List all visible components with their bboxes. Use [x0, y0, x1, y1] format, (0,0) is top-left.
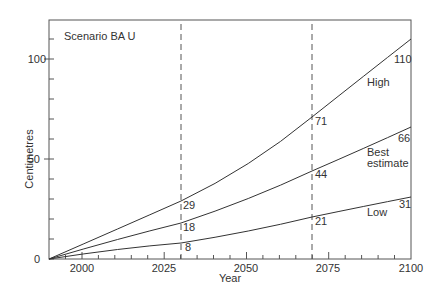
value-low-2070: 21 — [315, 215, 327, 227]
label-high: High — [367, 76, 390, 88]
x-tick-label-2100: 2100 — [399, 262, 423, 274]
plot-frame — [49, 20, 411, 259]
y-tick-label-50: 50 — [28, 153, 40, 165]
series-best-estimate — [49, 127, 411, 259]
series-high — [49, 39, 411, 259]
x-tick-label-2050: 2050 — [234, 262, 258, 274]
value-best-2100: 66 — [398, 132, 410, 144]
value-low-2030: 8 — [185, 241, 191, 253]
y-tick-label-0: 0 — [34, 253, 40, 265]
x-tick-label-2075: 2075 — [316, 262, 340, 274]
label-low: Low — [367, 206, 387, 218]
chart-title: Scenario BA U — [64, 30, 136, 42]
x-tick-label-2025: 2025 — [152, 262, 176, 274]
sea-level-chart: Scenario BA U Year Centimetres 0 50 100 … — [0, 0, 442, 295]
value-high-2100: 110 — [394, 53, 412, 65]
value-high-2070: 71 — [315, 115, 327, 127]
x-tick-label-2000: 2000 — [70, 262, 94, 274]
series-low — [49, 197, 411, 259]
y-tick-label-100: 100 — [28, 53, 46, 65]
label-estimate: estimate — [367, 157, 409, 169]
value-best-2030: 18 — [183, 221, 195, 233]
value-best-2070: 44 — [315, 168, 327, 180]
value-low-2100: 31 — [399, 198, 411, 210]
value-high-2030: 29 — [183, 199, 195, 211]
x-ticks — [66, 252, 395, 259]
